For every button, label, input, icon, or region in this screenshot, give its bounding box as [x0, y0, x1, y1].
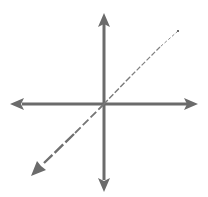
arrow-left-icon	[10, 98, 24, 110]
arrow-down-icon	[98, 178, 110, 192]
axes-diagram	[0, 0, 208, 197]
arrow-down-left-icon	[31, 161, 46, 176]
depth-axis-end-dot	[177, 30, 179, 32]
